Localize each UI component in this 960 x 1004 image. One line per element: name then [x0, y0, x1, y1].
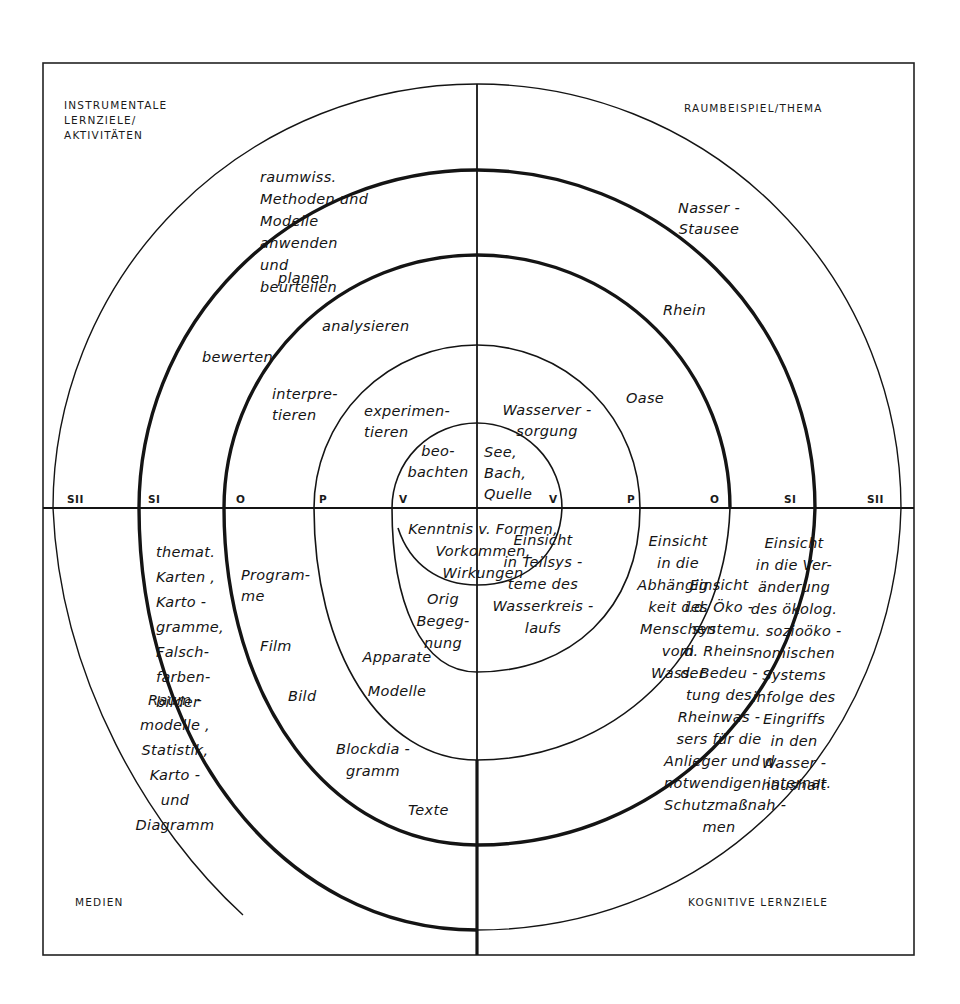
theme-o: Oase [626, 388, 664, 409]
activity-v-beobachten: beo- bachten [406, 441, 470, 483]
media-o-film: Film [260, 636, 292, 657]
activity-p-experimentieren: experimen- tieren [364, 401, 450, 443]
theme-sii: Nasser - Stausee [664, 198, 754, 240]
corner-label-instrumental: INSTRUMENTALE LERNZIELE/ AKTIVITÄTEN [64, 98, 167, 143]
media-sii: Raum - modelle , Statistik, Karto - und … [110, 688, 240, 838]
level-tick-right-o: O [710, 493, 719, 505]
theme-v: See, Bach, Quelle [484, 442, 532, 505]
level-tick-left-v: V [399, 493, 408, 505]
corner-label-cognitive: KOGNITIVE LERNZIELE [688, 895, 828, 910]
cognitive-sii: Einsicht in die Ver- änderung des ökolog… [734, 532, 854, 796]
activity-sii-text: raumwiss. Methoden und Modelle anwenden … [174, 166, 368, 298]
theme-p: Wasserver - sorgung [492, 400, 602, 442]
media-o-programme: Program- me [241, 565, 310, 607]
cognitive-si: Einsicht i.d. Öko - system d. Rheins d. … [492, 574, 774, 838]
activity-si-planen: planen [278, 268, 329, 289]
media-o-texte: Texte [408, 800, 449, 821]
level-tick-left-o: O [236, 493, 245, 505]
theme-si: Rhein [663, 300, 706, 321]
media-o-blockdiagramm: Blockdia - gramm [318, 738, 428, 782]
activity-o-interpretieren: interpre- tieren [272, 384, 338, 426]
level-tick-left-p: P [319, 493, 327, 505]
activity-o-analysieren: analysieren [322, 316, 409, 337]
corner-label-theme: RAUMBEISPIEL/THEMA [684, 101, 823, 116]
level-tick-left-sii: SII [67, 493, 84, 505]
level-tick-right-si: SI [784, 493, 796, 505]
level-tick-right-p: P [627, 493, 635, 505]
media-p: Apparate Modelle [352, 640, 442, 708]
media-o-bild: Bild [288, 686, 316, 707]
diagram-graphics [0, 0, 960, 1004]
level-tick-left-si: SI [148, 493, 160, 505]
activity-si-bewerten: bewerten [202, 347, 273, 368]
activity-sii: raumwiss. Methoden und Modelle anwenden … [174, 122, 368, 342]
level-tick-right-sii: SII [867, 493, 884, 505]
level-tick-right-v: V [549, 493, 558, 505]
didactic-spiral-diagram: INSTRUMENTALE LERNZIELE/ AKTIVITÄTEN RAU… [0, 0, 960, 1004]
corner-label-media: MEDIEN [75, 895, 124, 910]
